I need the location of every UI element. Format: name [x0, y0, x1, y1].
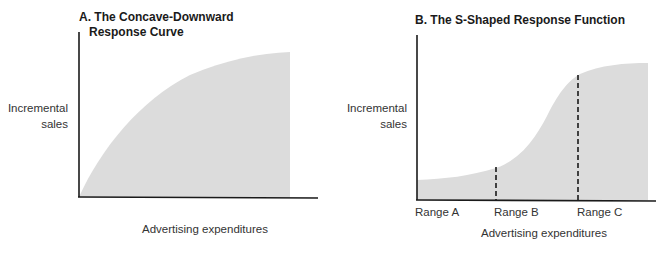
panel-b-ylabel-line2: sales — [380, 116, 407, 132]
panel-a-ylabel-line1: Incremental — [8, 100, 68, 116]
panel-a-ylabel-line2: sales — [41, 116, 68, 132]
range-b-label: Range B — [494, 206, 539, 218]
panel-a-x-axis — [78, 197, 318, 198]
panel-b-ylabel-line1: Incremental — [347, 100, 407, 116]
panel-b-x-axis — [416, 200, 656, 201]
panel-a-title-line1: A. The Concave-Downward — [79, 10, 234, 25]
panel-b-xlabel: Advertising expenditures — [481, 227, 607, 239]
panel-a-title-line2: Response Curve — [89, 25, 184, 40]
panel-b-response-area — [417, 63, 648, 200]
panel-a-response-area — [79, 52, 290, 197]
range-a-label: Range A — [415, 206, 459, 218]
range-c-label: Range C — [577, 206, 622, 218]
panel-a-xlabel: Advertising expenditures — [142, 223, 268, 235]
panel-b-title: B. The S-Shaped Response Function — [415, 13, 625, 28]
